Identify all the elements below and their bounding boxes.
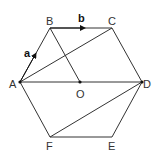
label-d: D xyxy=(143,78,151,90)
label-e: E xyxy=(108,140,115,152)
label-c: C xyxy=(108,15,116,27)
point-o-dot xyxy=(78,80,81,83)
segment-ac xyxy=(20,28,112,82)
label-vector-b: b xyxy=(78,12,85,24)
hexagon-diagram: B b C a A O D F E xyxy=(0,0,156,152)
point-a-dot xyxy=(18,80,21,83)
segment-fd xyxy=(50,82,142,137)
label-a: A xyxy=(9,78,17,90)
label-vector-a: a xyxy=(24,47,31,59)
label-f: F xyxy=(46,140,53,152)
label-b: B xyxy=(46,15,53,27)
label-o: O xyxy=(76,88,85,100)
segment-bo xyxy=(50,28,80,82)
